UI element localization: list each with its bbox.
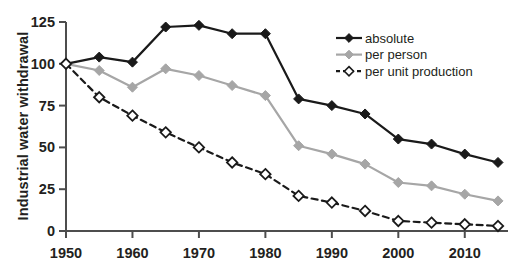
data-point-marker (393, 216, 403, 226)
data-point-marker (427, 181, 437, 191)
data-point-marker (194, 71, 204, 81)
data-point-marker (227, 81, 237, 91)
data-point-marker (493, 196, 503, 206)
data-point-marker (260, 29, 270, 39)
data-point-marker (327, 101, 337, 111)
x-tick-label: 2000 (382, 245, 414, 261)
legend-item-per-person[interactable]: per person (336, 47, 427, 62)
line-chart: 0255075100125 19501960197019801990200020… (0, 0, 513, 270)
legend-marker (345, 34, 354, 43)
legend-label: per person (365, 47, 427, 62)
y-tick-label: 25 (39, 181, 55, 197)
data-point-marker (460, 149, 470, 159)
x-tick-label: 1990 (316, 245, 348, 261)
data-point-marker (427, 139, 437, 149)
data-point-marker (493, 221, 503, 231)
data-point-marker (94, 52, 104, 62)
data-point-marker (327, 149, 337, 159)
legend-label: absolute (365, 31, 414, 46)
y-axis-ticks: 0255075100125 (31, 14, 66, 239)
y-tick-label: 100 (31, 56, 55, 72)
data-point-marker (94, 65, 104, 75)
data-point-marker (127, 110, 137, 120)
data-point-marker (426, 217, 436, 227)
y-tick-label: 125 (31, 14, 55, 30)
series-absolute (61, 20, 503, 167)
y-axis-label: Industrial water withdrawal (15, 6, 31, 246)
data-point-marker (327, 197, 337, 207)
legend-label: per unit production (365, 64, 473, 79)
x-axis-ticks: 1950196019701980199020002010 (50, 231, 481, 261)
data-point-marker (194, 142, 204, 152)
x-tick-label: 1970 (183, 245, 215, 261)
y-tick-label: 0 (47, 223, 55, 239)
data-point-marker (227, 157, 237, 167)
data-point-marker (360, 159, 370, 169)
data-point-marker (493, 157, 503, 167)
legend-item-absolute[interactable]: absolute (336, 31, 414, 46)
data-point-marker (161, 64, 171, 74)
data-point-marker (460, 219, 470, 229)
series-per-person (61, 59, 503, 206)
x-tick-label: 1960 (116, 245, 148, 261)
legend-marker (344, 67, 353, 76)
data-point-marker (127, 82, 137, 92)
data-series-layer (61, 20, 503, 231)
data-point-marker (360, 206, 370, 216)
chart-legend: absoluteper personper unit production (336, 31, 473, 79)
x-tick-label: 1980 (249, 245, 281, 261)
data-point-marker (227, 29, 237, 39)
x-tick-label: 1950 (50, 245, 82, 261)
legend-item-per-unit-production[interactable]: per unit production (336, 64, 473, 79)
chart-container: Industrial water withdrawal 025507510012… (0, 0, 513, 270)
legend-marker (345, 50, 354, 59)
data-point-marker (393, 178, 403, 188)
data-point-marker (194, 20, 204, 30)
x-tick-label: 2010 (449, 245, 481, 261)
y-tick-label: 75 (39, 98, 55, 114)
data-point-marker (294, 94, 304, 104)
y-tick-label: 50 (39, 139, 55, 155)
data-point-marker (460, 189, 470, 199)
data-point-marker (160, 127, 170, 137)
